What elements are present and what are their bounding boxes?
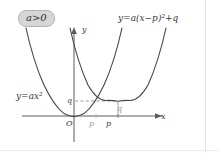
equation-label-basic-form: y=ax² [16,92,43,101]
curve-y-equals-a-x-minus-p-squared-plus-q [70,28,166,101]
p-label-second: p [106,120,111,128]
equation-label-vertex-form: y=a(x−p)²+q [118,14,178,23]
q-segment-label: q [117,105,122,113]
condition-badge: a>0 [18,10,55,27]
y-axis-arrow [71,27,77,34]
parabola-diagram: a>0 y=a(x−p)²+q y=ax² y x O q q p p [0,0,218,153]
origin-label: O [66,120,73,128]
p-label-first: p [89,120,94,128]
x-axis-label: x [161,113,166,121]
y-axis-label: y [82,26,87,34]
q-axis-label: q [67,97,72,105]
